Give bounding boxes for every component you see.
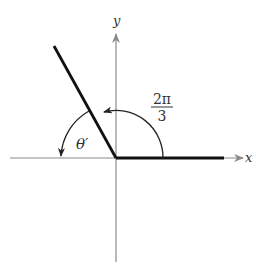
reference-angle-label: θ′ bbox=[76, 135, 89, 153]
angle-label-denominator: 3 bbox=[158, 108, 167, 124]
angle-label-numerator: 2π bbox=[153, 91, 171, 107]
y-axis-label: y bbox=[112, 13, 121, 28]
x-axis-label: x bbox=[245, 150, 253, 165]
reference-angle-diagram: y x 2π 3 θ′ bbox=[0, 0, 256, 266]
